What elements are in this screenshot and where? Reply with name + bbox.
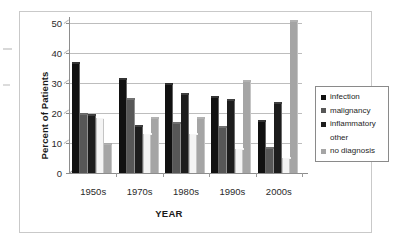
plot-area: 01020304050 1950s1970s1980s1990s2000s [70,23,302,173]
bar-top-cap [80,113,88,115]
bar-set [119,23,159,173]
bar [243,82,251,174]
x-tick-label: 2000s [254,186,304,197]
bar-top-cap [243,80,251,82]
x-axis-tick [116,173,117,177]
bar-top-cap [88,114,96,116]
bar-group [258,23,298,173]
x-tick-label: 1950s [68,186,118,197]
bar-group [211,23,251,173]
bar [104,145,112,174]
bar [119,80,127,173]
x-axis-tick [302,173,303,177]
bar [189,134,197,173]
legend-item-label: other [330,133,348,143]
y-tick-label: 40 [51,48,62,59]
bar-top-cap [104,143,112,145]
bar-top-cap [173,122,181,124]
x-axis-tick [209,173,210,177]
legend-swatch-icon [321,135,326,140]
y-tick-mark [66,83,70,84]
y-tick-label: 20 [51,108,62,119]
bar [88,116,96,173]
y-tick-label: 10 [51,138,62,149]
y-tick-label: 30 [51,78,62,89]
bar-top-cap [236,148,244,150]
bar [165,85,173,174]
x-tick-label: 1970s [115,186,165,197]
bar-set [165,23,205,173]
bar-top-cap [266,147,274,149]
legend-item[interactable]: no diagnosis [321,146,384,156]
y-tick-mark [66,113,70,114]
legend-swatch-icon [321,95,326,100]
bar [258,122,266,173]
legend-item-label: infection [330,92,360,102]
legend-swatch-icon [321,122,326,127]
bar-top-cap [72,62,80,64]
y-tick-label: 0 [57,168,62,179]
x-tick-label: 1990s [207,186,257,197]
bar-set [258,23,298,173]
bar-top-cap [290,20,298,22]
bar-top-cap [211,96,219,98]
bar [96,118,104,174]
legend-item-label: inflammatory [330,119,376,129]
x-axis-tick [163,173,164,177]
bar-top-cap [127,98,135,100]
x-axis-title: YEAR [34,208,304,219]
legend-item[interactable]: inflammatory [321,119,384,129]
bar-top-cap [97,117,105,119]
bar-top-cap [219,126,227,128]
bar-top-cap [274,102,282,104]
bar [72,64,80,174]
bar-top-cap [283,157,291,159]
bar-top-cap [151,117,159,119]
bar-top-cap [197,117,205,119]
bar [80,115,88,174]
chart-frame: Percent of Patients YEAR 01020304050 195… [19,11,372,233]
bar-top-cap [181,93,189,95]
bar-group [165,23,205,173]
bar-group [72,23,112,173]
bar-top-cap [258,120,266,122]
x-tick-label: 1980s [161,186,211,197]
chart-legend: infectionmalignancyinflammatoryotherno d… [315,86,389,162]
legend-item[interactable]: infection [321,92,384,102]
bar-top-cap [144,133,152,135]
scan-artifact [3,48,12,50]
scan-artifact-2 [3,84,10,86]
bar [135,127,143,174]
y-tick-mark [66,23,70,24]
legend-swatch-icon [321,149,326,154]
y-axis-title: Percent of Patients [39,56,50,176]
bar [274,104,282,173]
x-axis-tick [256,173,257,177]
bar-set [211,23,251,173]
y-tick-mark [66,143,70,144]
bar [282,158,290,173]
bar [143,134,151,173]
bar-top-cap [165,83,173,85]
bar [227,101,235,173]
y-tick-mark [66,173,70,174]
bar [181,95,189,173]
legend-item[interactable]: malignancy [321,106,384,116]
y-tick-label: 50 [51,18,62,29]
y-axis-line [69,17,70,174]
x-axis-line [69,173,308,174]
bar [219,128,227,173]
bar [266,149,274,173]
bar [235,149,243,173]
y-tick-mark [66,53,70,54]
bar [127,100,135,174]
legend-swatch-icon [321,108,326,113]
bar [211,98,219,173]
bar [197,119,205,173]
chart-page: Percent of Patients YEAR 01020304050 195… [0,0,410,244]
legend-item[interactable]: other [321,133,384,143]
bar-top-cap [227,99,235,101]
bar [290,22,298,174]
bar-top-cap [119,78,127,80]
legend-item-label: no diagnosis [330,146,375,156]
